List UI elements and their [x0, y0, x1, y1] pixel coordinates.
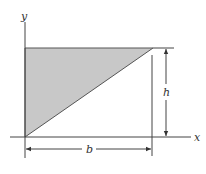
diagram-canvas: y x h b	[0, 0, 206, 174]
height-dimension-label: h	[163, 86, 170, 99]
shaded-triangle	[25, 48, 153, 137]
triangle-figure: y x h b	[0, 0, 206, 174]
base-dimension-label: b	[86, 143, 93, 156]
y-axis-label: y	[20, 10, 28, 23]
x-axis-label: x	[194, 131, 201, 144]
